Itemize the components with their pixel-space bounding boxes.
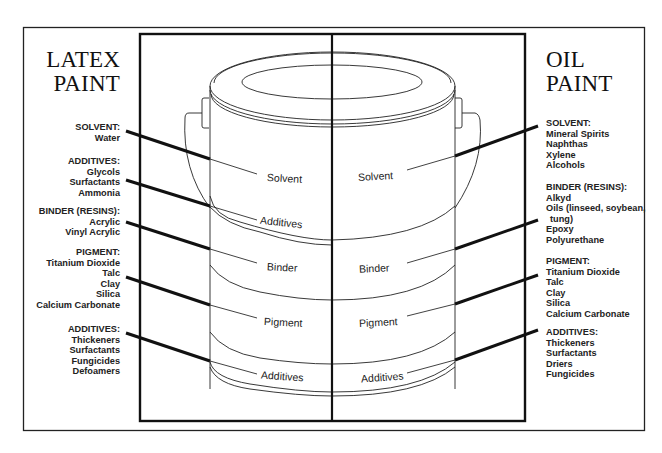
group-item: Acrylic (39, 217, 120, 228)
group-item: Silica (36, 289, 120, 300)
group-heading: BINDER (RESINS): (39, 206, 120, 217)
group-item: Talc (546, 277, 630, 288)
leader-lines-right (407, 126, 538, 373)
handle-ear-left (202, 98, 209, 128)
group-item: Water (75, 133, 120, 144)
group-heading: SOLVENT: (546, 118, 609, 129)
group-item: Clay (546, 288, 630, 299)
latex-layer-pigment: Pigment (264, 315, 303, 329)
group-item: Calcium Carbonate (546, 309, 630, 320)
oil-layer-binder: Binder (359, 261, 390, 275)
group-item: Silica (546, 298, 630, 309)
group-item: Vinyl Acrylic (39, 227, 120, 238)
group-item: Polyurethane (546, 235, 646, 246)
latex-paint-title: LATEX PAINT (40, 48, 120, 96)
latex-binder-group: BINDER (RESINS): Acrylic Vinyl Acrylic (39, 206, 120, 238)
oil-additives-group: ADDITIVES: Thickeners Surfactants Driers… (546, 327, 598, 380)
group-item: Ammonia (68, 188, 120, 199)
oil-paint-title: OIL PAINT (546, 48, 636, 96)
group-item: Surfactants (546, 348, 598, 359)
group-item: Alcohols (546, 160, 609, 171)
handle-bail-left (185, 113, 210, 208)
group-item: Defoamers (68, 366, 120, 377)
group-item: Fungicides (68, 356, 120, 367)
group-item: tung) (546, 214, 646, 225)
group-item: Oils (linseed, soybean, (546, 203, 646, 214)
handle-bail-right (455, 113, 480, 208)
latex-pigment-group: PIGMENT: Titanium Dioxide Talc Clay Sili… (36, 247, 120, 311)
group-heading: ADDITIVES: (68, 156, 120, 167)
group-item: Driers (546, 359, 598, 370)
group-item: Naphthas (546, 139, 609, 150)
latex-layer-solvent: Solvent (267, 171, 303, 185)
group-item: Titanium Dioxide (36, 258, 120, 269)
title-line: LATEX (40, 48, 120, 72)
latex-solvent-group: SOLVENT: Water (75, 122, 120, 143)
group-item: Fungicides (546, 369, 598, 380)
latex-additives-group: ADDITIVES: Glycols Surfactants Ammonia (68, 156, 120, 198)
group-item: Glycols (68, 167, 120, 178)
group-item: Surfactants (68, 177, 120, 188)
oil-binder-group: BINDER (RESINS): Alkyd Oils (linseed, so… (546, 182, 646, 246)
latex-additives-bottom-group: ADDITIVES: Thickeners Surfactants Fungic… (68, 324, 120, 377)
paint-composition-diagram: LATEX PAINT OIL PAINT SOLVENT: Water ADD… (0, 0, 662, 453)
group-item: Titanium Dioxide (546, 267, 630, 278)
oil-layer-pigment: Pigment (359, 315, 398, 329)
group-heading: ADDITIVES: (546, 327, 598, 338)
latex-layer-binder: Binder (267, 260, 298, 274)
title-line: PAINT (546, 72, 636, 96)
group-item: Talc (36, 268, 120, 279)
group-item: Thickeners (546, 338, 598, 349)
group-heading: PIGMENT: (36, 247, 120, 258)
group-heading: BINDER (RESINS): (546, 182, 646, 193)
group-item: Alkyd (546, 193, 646, 204)
group-item: Clay (36, 279, 120, 290)
title-line: OIL (546, 48, 636, 72)
title-line: PAINT (40, 72, 120, 96)
group-item: Surfactants (68, 345, 120, 356)
group-heading: PIGMENT: (546, 256, 630, 267)
oil-layer-solvent: Solvent (358, 169, 394, 183)
leader-lines-left (126, 131, 257, 374)
group-item: Epoxy (546, 224, 646, 235)
oil-solvent-group: SOLVENT: Mineral Spirits Naphthas Xylene… (546, 118, 609, 171)
group-item: Mineral Spirits (546, 129, 609, 140)
oil-pigment-group: PIGMENT: Titanium Dioxide Talc Clay Sili… (546, 256, 630, 320)
group-heading: SOLVENT: (75, 122, 120, 133)
group-item: Thickeners (68, 335, 120, 346)
group-heading: ADDITIVES: (68, 324, 120, 335)
group-item: Calcium Carbonate (36, 300, 120, 311)
handle-ear-right (455, 98, 462, 128)
group-item: Xylene (546, 150, 609, 161)
